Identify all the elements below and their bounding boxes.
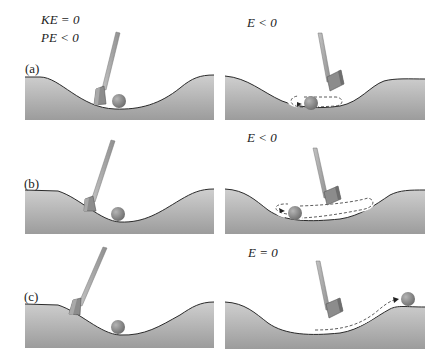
golf-club [318, 33, 344, 91]
golf-ball [401, 292, 415, 306]
energy-label-c-right: E = 0 [248, 246, 278, 260]
panel-label-b: (b) [24, 177, 39, 191]
energy-label-b-right: E < 0 [247, 131, 277, 145]
arrow-head-icon [393, 297, 399, 303]
energy-label-ke: KE = 0 [41, 13, 79, 27]
ground-terrain [225, 302, 425, 349]
row-a [25, 32, 425, 120]
panel-label-a: (a) [25, 62, 39, 76]
golf-club [84, 140, 115, 211]
arrow-head-icon [279, 208, 285, 213]
golf-ball [304, 96, 318, 110]
golf-ball [112, 94, 126, 108]
row-c [25, 247, 425, 349]
potential-well-diagram [0, 0, 445, 364]
golf-ball [111, 207, 125, 221]
golf-club [316, 261, 343, 318]
golf-ball [111, 320, 125, 334]
golf-ball [288, 206, 302, 220]
golf-club [69, 247, 107, 315]
energy-label-a-right: E < 0 [247, 16, 277, 30]
golf-club [94, 32, 120, 105]
row-b [25, 140, 425, 234]
energy-label-pe: PE < 0 [41, 31, 79, 45]
golf-club [313, 148, 341, 205]
panel-label-c: (c) [24, 290, 38, 304]
